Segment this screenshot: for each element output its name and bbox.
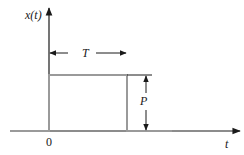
origin-label: 0	[46, 136, 52, 148]
pulse-diagram: x(t) t 0 T P	[0, 0, 244, 155]
height-label: P	[140, 95, 147, 107]
x-axis-label: t	[225, 138, 228, 150]
width-label: T	[82, 47, 89, 59]
diagram-canvas	[0, 0, 244, 155]
pulse-signal	[10, 75, 172, 131]
y-axis-label: x(t)	[25, 9, 42, 21]
